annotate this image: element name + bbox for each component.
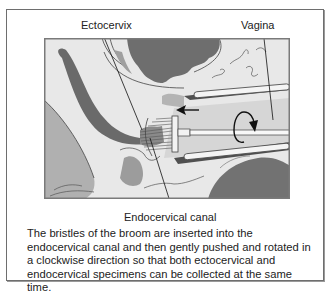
cervix-broom-illustration — [44, 38, 290, 199]
figure-caption: The bristles of the broom are inserted i… — [27, 227, 317, 295]
label-ectocervix: Ectocervix — [81, 19, 132, 32]
broom-handle — [190, 130, 290, 135]
broom-head — [172, 116, 178, 152]
label-endocervical-canal: Endocervical canal — [124, 211, 216, 224]
label-vagina: Vagina — [241, 19, 274, 32]
